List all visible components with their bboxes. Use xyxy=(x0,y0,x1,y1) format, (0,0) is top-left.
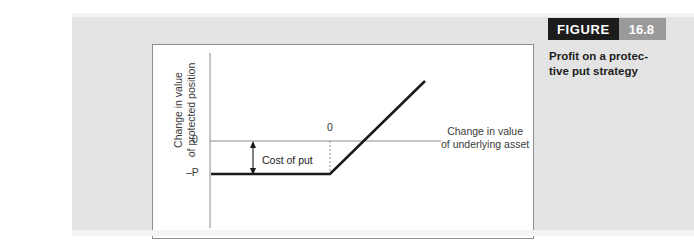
x-axis-title: Change in value of underlying asset xyxy=(441,125,529,151)
y-tick-label-neg-p: –P xyxy=(186,166,199,178)
cost-of-put-arrow xyxy=(250,141,256,175)
figure-badge: FIGURE 16.8 xyxy=(548,18,666,40)
y-axis-title-line-2: of protected position xyxy=(185,50,198,170)
payoff-line xyxy=(211,81,425,174)
figure-badge-word: FIGURE xyxy=(548,18,619,40)
y-axis-title: Change in value of protected position xyxy=(172,50,198,170)
y-tick-label-zero: 0 xyxy=(192,133,198,145)
cost-of-put-label: Cost of put xyxy=(262,154,313,166)
chart-plot-area: Change in value of protected position Ch… xyxy=(152,44,534,239)
x-tick-label-zero: 0 xyxy=(327,121,333,133)
figure-panel: Change in value of protected position Ch… xyxy=(72,17,694,230)
figure-caption-line-1: Profit on a protec- xyxy=(549,49,675,64)
figure-caption-line-2: tive put strategy xyxy=(549,64,675,79)
panel-bottom-edge xyxy=(72,230,694,236)
x-axis-title-line-1: Change in value xyxy=(441,125,529,138)
figure-caption: Profit on a protec- tive put strategy xyxy=(549,49,675,79)
x-axis-title-line-2: of underlying asset xyxy=(441,138,529,151)
y-axis-title-line-1: Change in value xyxy=(172,50,185,170)
figure-badge-number: 16.8 xyxy=(619,18,666,40)
